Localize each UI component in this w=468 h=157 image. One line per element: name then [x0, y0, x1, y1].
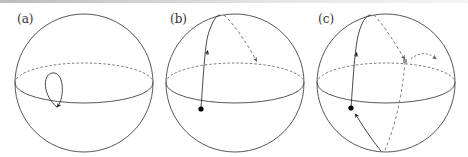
path-back-descending: [385, 62, 405, 150]
equator-back: [166, 63, 304, 83]
sphere-outline: [15, 14, 153, 152]
equator-front: [166, 83, 304, 103]
sphere-outline: [166, 14, 304, 152]
start-point: [198, 106, 203, 111]
panel-label-c: (c): [318, 12, 334, 26]
sphere-diagram: (a) (b) (c): [0, 0, 468, 157]
crossing-marker: [403, 59, 407, 63]
closed-loop-path: [45, 73, 62, 107]
path-continuation-dashed: [411, 54, 435, 59]
path-back-dashed: [374, 15, 404, 58]
path-front-upper: [351, 15, 371, 108]
panel-c: (c): [317, 12, 455, 152]
path-over-pole: [208, 15, 220, 35]
panel-label-a: (a): [17, 12, 34, 26]
panel-a: (a): [15, 12, 153, 152]
start-point: [348, 105, 353, 110]
equator-back: [15, 63, 153, 83]
equator-front: [317, 83, 455, 103]
panel-label-b: (b): [170, 12, 187, 26]
path-front-lower: [201, 35, 208, 108]
sphere-outline: [317, 14, 455, 152]
path-back-dashed: [224, 15, 256, 60]
equator-back: [317, 63, 455, 83]
equator-front: [15, 83, 153, 103]
panel-b: (b): [166, 12, 304, 152]
path-front-lower: [356, 115, 381, 151]
